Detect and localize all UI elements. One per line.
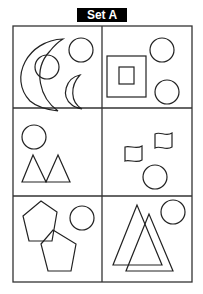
cell-r2c1: [22, 125, 70, 182]
shape-grid: [0, 0, 203, 294]
circle-shape: [35, 55, 59, 79]
cell-r1c1: [21, 38, 93, 111]
circle-shape: [69, 38, 93, 62]
grid-lines: [13, 26, 192, 282]
flag-shape: [125, 146, 142, 162]
pentagon-shape: [41, 230, 76, 271]
circle-shape: [143, 165, 167, 189]
small-square-shape: [119, 67, 134, 84]
cell-r2c2: [125, 133, 172, 189]
large-square-shape: [107, 56, 146, 97]
triangle-shape: [126, 214, 173, 271]
cell-r3c1: [23, 201, 94, 271]
triangle-shape: [46, 155, 70, 182]
pentagon-shape: [23, 201, 57, 241]
cell-r3c2: [113, 200, 185, 271]
circle-shape: [150, 38, 174, 62]
small-crescent-shape: [66, 75, 82, 109]
circle-shape: [155, 80, 179, 104]
triangle-shape: [22, 155, 46, 182]
triangle-shape: [113, 205, 162, 265]
circle-shape: [161, 200, 185, 224]
circle-shape: [70, 206, 94, 230]
cell-r1c2: [107, 38, 179, 104]
flag-shape: [155, 133, 172, 148]
circle-shape: [22, 125, 46, 149]
